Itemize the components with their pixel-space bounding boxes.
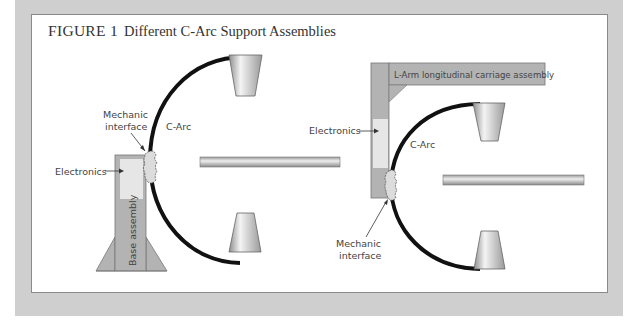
mechanic-interface-label-2: interface — [339, 250, 382, 261]
mechanic-interface-label-1: Mechanic — [103, 109, 148, 120]
l-arm-gusset — [389, 85, 407, 102]
patient-table-bar — [443, 175, 584, 185]
mechanic-interface — [385, 170, 397, 200]
right-assembly: L-Arm longitudinal carriage assembly Ele… — [309, 63, 584, 269]
electronics-label: Electronics — [309, 125, 361, 136]
mechanic-interface-label-1: Mechanic — [336, 238, 381, 249]
c-arc-label: C-Arc — [410, 139, 435, 150]
patient-table-bar — [200, 157, 340, 167]
base-right-flank — [146, 237, 167, 271]
base-left-flank — [96, 237, 115, 271]
bottom-detector — [474, 231, 505, 269]
diagram-canvas: Base assembly Mechanic interface C-Arc E… — [0, 0, 639, 329]
top-detector — [473, 103, 505, 141]
electronics-box — [120, 159, 143, 199]
mechanic-interface-label-2: interface — [105, 121, 148, 132]
mechanic-interface — [144, 151, 158, 183]
mechanic-interface-arrow — [366, 202, 386, 237]
l-arm-label: L-Arm longitudinal carriage assembly — [394, 70, 554, 80]
electronics-box — [373, 119, 388, 168]
left-assembly: Base assembly Mechanic interface C-Arc E… — [55, 55, 340, 271]
electronics-label: Electronics — [55, 166, 107, 177]
bottom-detector — [229, 213, 261, 252]
base-assembly-label: Base assembly — [127, 194, 138, 266]
c-arc — [391, 104, 480, 269]
c-arc-label: C-Arc — [166, 121, 191, 132]
top-detector — [229, 55, 262, 96]
